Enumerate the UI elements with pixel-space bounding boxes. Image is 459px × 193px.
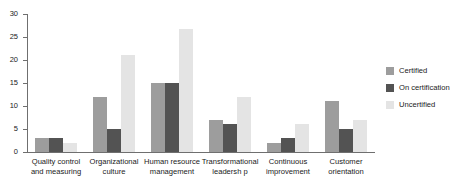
- x-axis-line: [27, 152, 375, 153]
- legend-item-on-certification[interactable]: On certification: [386, 80, 450, 95]
- bar-group: [267, 14, 309, 152]
- y-axis-tick: 5: [23, 129, 27, 130]
- legend-swatch-icon-certified: [386, 67, 394, 75]
- chart-legend: Certified On certification Uncertified: [386, 63, 450, 114]
- bar-group: [325, 14, 367, 152]
- y-axis-tick: 25: [23, 37, 27, 38]
- bar: [121, 55, 135, 152]
- bar: [107, 129, 121, 152]
- bar-chart: 051015202530 Quality control and measuri…: [0, 0, 459, 193]
- legend-item-uncertified[interactable]: Uncertified: [386, 97, 450, 112]
- bar: [165, 83, 179, 152]
- bar-group: [209, 14, 251, 152]
- bar: [209, 120, 223, 152]
- y-axis-tick-label: 0: [14, 147, 18, 156]
- bar: [267, 143, 281, 152]
- bar: [281, 138, 295, 152]
- y-axis-tick-label: 25: [10, 32, 18, 41]
- bar: [237, 97, 251, 152]
- bar-group: [35, 14, 77, 152]
- bar: [325, 101, 339, 152]
- legend-item-certified[interactable]: Certified: [386, 63, 450, 78]
- plot-area: 051015202530: [27, 14, 375, 152]
- bar-group: [93, 14, 135, 152]
- y-axis-tick: 20: [23, 60, 27, 61]
- y-axis-tick: 0: [23, 152, 27, 153]
- y-axis-tick-label: 5: [14, 124, 18, 133]
- y-axis-tick: 30: [23, 14, 27, 15]
- legend-swatch-icon-uncertified: [386, 101, 394, 109]
- bar: [339, 129, 353, 152]
- bar: [63, 143, 77, 152]
- y-axis-tick-label: 10: [10, 101, 18, 110]
- y-axis-tick-label: 30: [10, 9, 18, 18]
- legend-label-certified: Certified: [399, 66, 427, 75]
- x-axis-category-label: Customer orientation: [310, 157, 382, 177]
- bar: [353, 120, 367, 152]
- bar: [151, 83, 165, 152]
- bar-group: [151, 14, 193, 152]
- legend-swatch-icon-on-certification: [386, 84, 394, 92]
- y-axis-tick: 15: [23, 83, 27, 84]
- bar: [35, 138, 49, 152]
- bar: [295, 124, 309, 152]
- legend-label-uncertified: Uncertified: [399, 100, 435, 109]
- bar: [223, 124, 237, 152]
- legend-label-on-certification: On certification: [399, 83, 450, 92]
- y-axis-tick: 10: [23, 106, 27, 107]
- bar: [179, 29, 193, 152]
- y-axis-tick-label: 15: [10, 78, 18, 87]
- bar: [93, 97, 107, 152]
- bar: [49, 138, 63, 152]
- y-axis-tick-label: 20: [10, 55, 18, 64]
